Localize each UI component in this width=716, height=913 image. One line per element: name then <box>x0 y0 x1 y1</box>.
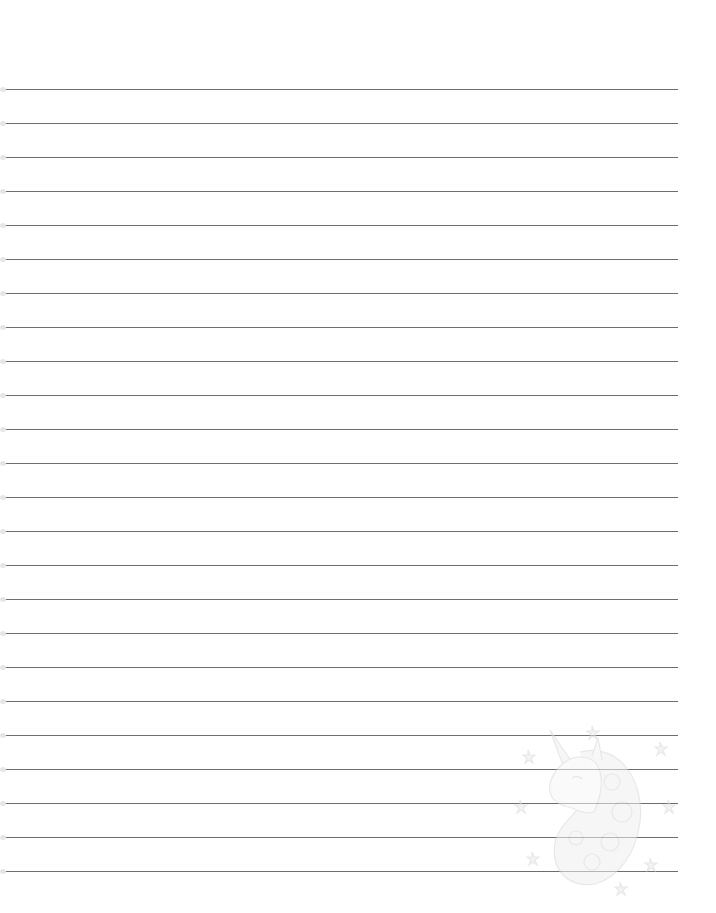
ruled-line <box>3 123 678 124</box>
ruled-line <box>3 463 678 464</box>
ruled-line <box>3 531 678 532</box>
ruled-line <box>3 429 678 430</box>
ruled-line <box>3 395 678 396</box>
unicorn-watermark <box>500 712 690 902</box>
ruled-line <box>3 701 678 702</box>
ruled-line <box>3 259 678 260</box>
ruled-line <box>3 667 678 668</box>
ruled-line <box>3 157 678 158</box>
ruled-line <box>3 327 678 328</box>
ruled-line <box>3 293 678 294</box>
ruled-line <box>3 565 678 566</box>
ruled-line <box>3 633 678 634</box>
ruled-line <box>3 225 678 226</box>
ruled-line <box>3 361 678 362</box>
ruled-line <box>3 599 678 600</box>
lined-paper-page <box>0 0 716 913</box>
ruled-line <box>3 89 678 90</box>
ruled-line <box>3 191 678 192</box>
ruled-line <box>3 497 678 498</box>
unicorn-head-icon <box>500 712 690 902</box>
